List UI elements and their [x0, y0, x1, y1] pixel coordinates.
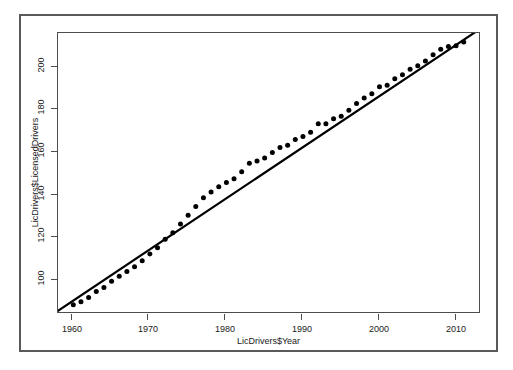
- data-point: [270, 150, 275, 155]
- data-point: [124, 269, 129, 274]
- x-tick-mark-2000: [378, 314, 379, 320]
- x-tick-label-2000: 2000: [359, 324, 399, 334]
- plot-area: [57, 32, 480, 313]
- data-point: [377, 84, 382, 89]
- x-tick-label-1990: 1990: [282, 324, 322, 334]
- data-point: [232, 176, 237, 181]
- x-tick-mark-2010: [455, 314, 456, 320]
- data-point: [431, 52, 436, 57]
- data-point: [354, 101, 359, 106]
- x-tick-label-1960: 1960: [52, 324, 92, 334]
- data-point: [392, 76, 397, 81]
- data-point: [300, 134, 305, 139]
- data-point: [178, 222, 183, 227]
- fit-line: [58, 33, 479, 311]
- data-point: [239, 169, 244, 174]
- data-point: [362, 96, 367, 101]
- data-point: [461, 39, 466, 44]
- data-point: [308, 130, 313, 135]
- data-point: [140, 258, 145, 263]
- data-point: [323, 121, 328, 126]
- data-points: [71, 39, 466, 307]
- data-point: [454, 43, 459, 48]
- data-point: [446, 44, 451, 49]
- plot-svg: [58, 33, 479, 312]
- data-point: [94, 289, 99, 294]
- data-point: [78, 299, 83, 304]
- chart-figure: 200 180 160 140 120 100 1960 1970 1980 1…: [0, 0, 513, 370]
- data-point: [170, 230, 175, 235]
- x-tick-mark-1970: [147, 314, 148, 320]
- data-point: [415, 63, 420, 68]
- x-tick-mark-1960: [71, 314, 72, 320]
- data-point: [216, 184, 221, 189]
- data-point: [400, 72, 405, 77]
- data-point: [293, 137, 298, 142]
- x-tick-mark-1980: [224, 314, 225, 320]
- data-point: [132, 264, 137, 269]
- data-point: [101, 285, 106, 290]
- x-tick-label-1970: 1970: [128, 324, 168, 334]
- data-point: [193, 204, 198, 209]
- data-point: [346, 108, 351, 113]
- data-point: [163, 237, 168, 242]
- data-point: [147, 251, 152, 256]
- data-point: [438, 47, 443, 52]
- data-point: [316, 121, 321, 126]
- data-point: [385, 83, 390, 88]
- regression-line: [58, 33, 479, 311]
- data-point: [331, 116, 336, 121]
- data-point: [209, 189, 214, 194]
- data-point: [423, 58, 428, 63]
- data-point: [186, 213, 191, 218]
- x-axis-label: LicDrivers$Year: [57, 336, 480, 346]
- x-tick-mark-1990: [301, 314, 302, 320]
- x-tick-label-2010: 2010: [436, 324, 476, 334]
- data-point: [255, 159, 260, 164]
- data-point: [262, 155, 267, 160]
- data-point: [155, 245, 160, 250]
- data-point: [285, 143, 290, 148]
- data-point: [71, 302, 76, 307]
- y-axis-label: LicDrivers$LicensedDrivers: [30, 32, 40, 313]
- data-point: [117, 274, 122, 279]
- data-point: [109, 279, 114, 284]
- data-point: [277, 145, 282, 150]
- data-point: [201, 195, 206, 200]
- data-point: [224, 180, 229, 185]
- data-point: [408, 67, 413, 72]
- data-point: [86, 295, 91, 300]
- data-point: [339, 114, 344, 119]
- x-tick-label-1980: 1980: [205, 324, 245, 334]
- data-point: [369, 91, 374, 96]
- data-point: [247, 161, 252, 166]
